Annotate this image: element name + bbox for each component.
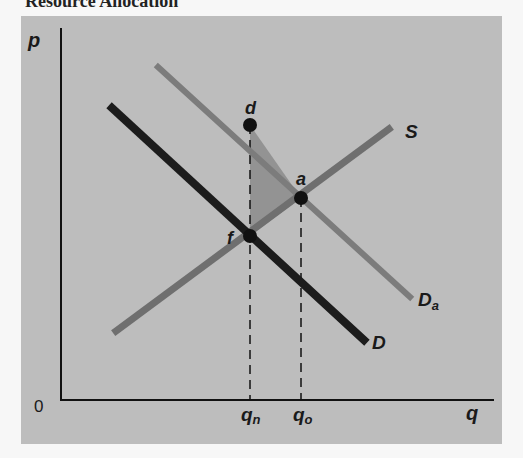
label-Da: Da xyxy=(418,289,439,313)
origin-label: 0 xyxy=(34,397,43,416)
label-D: D xyxy=(372,332,386,353)
x-axis-label: q xyxy=(466,402,478,424)
tick-label-qn: qn xyxy=(241,404,261,427)
y-axis-label: p xyxy=(27,29,40,51)
label-point-d: d xyxy=(245,98,257,118)
supply-demand-diagram: p 0 q S Da D d a f qn qo xyxy=(0,0,523,458)
label-S: S xyxy=(405,121,418,142)
point-f xyxy=(243,229,257,243)
label-point-a: a xyxy=(296,169,306,189)
point-d xyxy=(243,118,257,132)
point-a xyxy=(294,191,308,205)
shaded-triangle xyxy=(250,125,301,236)
tick-label-qo: qo xyxy=(293,404,313,427)
